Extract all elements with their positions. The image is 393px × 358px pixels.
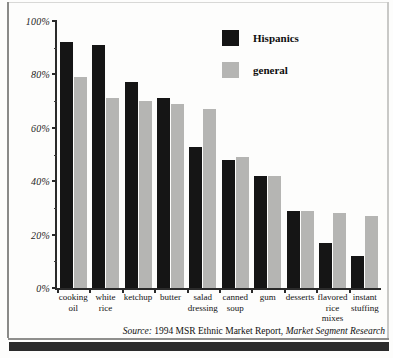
bar-hispanics: [351, 256, 364, 288]
bar-hispanics: [319, 243, 332, 288]
x-axis-label: instant stuffing: [349, 292, 381, 324]
x-axis-label: desserts: [284, 292, 316, 324]
y-axis-tick-label: 60%: [31, 122, 50, 133]
y-axis-tick-label: 20%: [31, 229, 50, 240]
x-axis-label: salad dressing: [187, 292, 219, 324]
x-axis-label: butter: [154, 292, 186, 324]
bar-hispanics: [157, 98, 170, 288]
x-axis-label: white rice: [89, 292, 121, 324]
bar-general: [268, 176, 281, 288]
x-axis-labels: cooking oilwhite riceketchupbuttersalad …: [57, 292, 381, 324]
x-axis-label: ketchup: [122, 292, 154, 324]
y-axis-tick-label: 100%: [26, 16, 50, 27]
plot-area: 100%80%60%40%20%0%: [57, 21, 381, 288]
bar-general: [171, 104, 184, 288]
bar-group: [349, 21, 381, 288]
bar-hispanics: [125, 82, 138, 288]
frame-right-rule: [387, 2, 389, 338]
x-axis-line: [55, 288, 381, 290]
bar-group: [122, 21, 154, 288]
bar-hispanics: [222, 160, 235, 288]
bar-hispanics: [287, 211, 300, 288]
bar-general: [139, 101, 152, 288]
source-prefix: Source:: [123, 326, 152, 336]
bar-general: [106, 98, 119, 288]
chart-figure: 100%80%60%40%20%0% cooking oilwhite rice…: [0, 0, 393, 358]
source-report: 1994 MSR Ethnic Market Report,: [154, 326, 283, 336]
legend-item-hispanics: Hispanics: [222, 30, 299, 46]
bar-group: [154, 21, 186, 288]
bar-general: [236, 157, 249, 288]
legend-swatch-hispanics: [222, 30, 239, 46]
frame-bottom-thick-rule: [9, 342, 389, 351]
bar-group: [316, 21, 348, 288]
y-axis-tick-label: 80%: [31, 69, 50, 80]
bar-general: [74, 77, 87, 288]
bar-general: [365, 216, 378, 288]
frame-top-rule: [7, 2, 389, 3]
y-axis-tick-label: 40%: [31, 176, 50, 187]
bar-general: [301, 211, 314, 288]
frame-left-rule: [7, 2, 9, 338]
y-axis-tick-label: 0%: [36, 283, 50, 294]
legend-label-general: general: [253, 64, 288, 76]
chart-legend: Hispanics general: [222, 30, 299, 94]
bar-hispanics: [60, 42, 73, 288]
x-axis-label: cooking oil: [57, 292, 89, 324]
x-axis-label: gum: [251, 292, 283, 324]
bar-group: [57, 21, 89, 288]
bar-general: [333, 213, 346, 288]
bar-hispanics: [92, 45, 105, 288]
x-axis-label: canned soup: [219, 292, 251, 324]
bar-group: [89, 21, 121, 288]
x-axis-label: flavored rice mixes: [316, 292, 348, 324]
legend-item-general: general: [222, 62, 299, 78]
bar-general: [203, 109, 216, 288]
bar-hispanics: [189, 147, 202, 289]
legend-label-hispanics: Hispanics: [253, 32, 299, 44]
source-caption: Source: 1994 MSR Ethnic Market Report, M…: [0, 326, 385, 336]
bar-hispanics: [254, 176, 267, 288]
bar-group: [187, 21, 219, 288]
bar-groups: [57, 21, 381, 288]
frame-bottom-thin-rule: [8, 338, 389, 340]
legend-swatch-general: [222, 62, 239, 78]
source-publisher: Market Segment Research: [286, 326, 385, 336]
